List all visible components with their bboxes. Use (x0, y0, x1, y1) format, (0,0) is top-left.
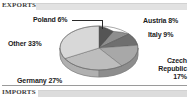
imports-header-bar (38, 90, 187, 97)
pie-label-czech-republic: Czech Republic 17% (143, 57, 187, 81)
pie-label-germany: Germany 27% (17, 77, 62, 85)
poland-leader-line (72, 20, 103, 21)
exports-pie-chart: Poland 6% Other 33% Germany 27% Austria … (0, 11, 189, 85)
pie-label-poland: Poland 6% (33, 16, 68, 24)
imports-section-header: IMPORTS (0, 88, 189, 99)
pie-label-czech-line2: Republic 17% (158, 65, 187, 80)
poland-leader-tick (102, 20, 103, 29)
imports-section-title: IMPORTS (2, 88, 36, 96)
section-divider (2, 85, 187, 86)
pie-label-austria: Austria 8% (143, 17, 178, 25)
pie-label-other: Other 33% (8, 40, 42, 48)
pie-label-italy: Italy 9% (148, 31, 173, 39)
pie-label-czech-line1: Czech (167, 57, 187, 64)
exports-imports-pie-panel: EXPORTS (0, 0, 189, 101)
exports-header-bar (36, 3, 187, 10)
exports-section-title: EXPORTS (2, 1, 36, 9)
